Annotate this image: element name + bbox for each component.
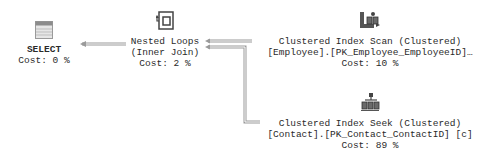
node-subtitle: (Inner Join) <box>120 47 210 58</box>
arrow-seek-to-nested <box>205 45 260 123</box>
node-title: Nested Loops <box>120 36 210 47</box>
node-cost: Cost: 2 % <box>120 58 210 69</box>
plan-node-clustered-index-seek[interactable]: Clustered Index Seek (Clustered) [Contac… <box>255 92 485 151</box>
plan-node-clustered-index-scan[interactable]: Clustered Index Scan (Clustered) [Employ… <box>255 10 485 69</box>
node-cost: Cost: 10 % <box>255 58 485 69</box>
node-cost: Cost: 0 % <box>14 55 74 66</box>
clustered-index-scan-icon <box>359 10 381 30</box>
node-object: [Contact].[PK_Contact_ContactID] [c] <box>255 129 485 140</box>
plan-node-select[interactable]: SELECT Cost: 0 % <box>14 21 74 66</box>
arrow-scan-to-nested <box>205 39 252 44</box>
plan-node-nested-loops[interactable]: Nested Loops (Inner Join) Cost: 2 % <box>120 11 210 69</box>
nested-loops-icon <box>156 11 174 31</box>
select-result-icon <box>35 21 53 39</box>
node-object: [Employee].[PK_Employee_EmployeeID]… <box>255 47 485 58</box>
node-title: Clustered Index Scan (Clustered) <box>255 36 485 47</box>
clustered-index-seek-icon <box>359 92 381 112</box>
node-title: Clustered Index Seek (Clustered) <box>255 118 485 129</box>
node-title: SELECT <box>14 44 74 55</box>
node-cost: Cost: 89 % <box>255 140 485 151</box>
